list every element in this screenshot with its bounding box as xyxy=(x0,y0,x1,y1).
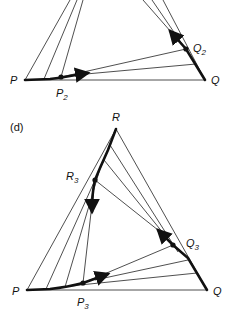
point-p2 xyxy=(58,74,63,79)
point-q3 xyxy=(170,242,175,247)
trajectory-q-curve xyxy=(170,31,205,80)
trajectory-p-curve xyxy=(27,274,108,290)
label-r3: R3 xyxy=(66,170,79,185)
label-r: R xyxy=(112,111,120,123)
label-p: P xyxy=(10,74,18,86)
label-q3: Q3 xyxy=(186,237,200,252)
trajectory-q-curve xyxy=(158,230,207,290)
ruling-line xyxy=(104,160,172,244)
point-p3 xyxy=(80,280,85,285)
diagram-canvas: P Q P2 Q2 (d) R P Q R3 P3 xyxy=(0,0,228,317)
trajectory-p-curve xyxy=(25,73,88,80)
label-p3: P3 xyxy=(77,296,89,311)
panel-d: (d) R P Q R3 P3 Q3 xyxy=(10,111,222,311)
panel-label-d: (d) xyxy=(10,121,23,133)
panel-c: P Q P2 Q2 xyxy=(10,0,220,102)
point-r3 xyxy=(92,177,97,182)
label-q2: Q2 xyxy=(193,42,207,57)
ruling-line xyxy=(61,49,186,77)
ruling-line xyxy=(110,145,178,252)
point-q2 xyxy=(183,46,188,51)
label-p2: P2 xyxy=(56,87,68,102)
label-p: P xyxy=(12,285,20,297)
label-q: Q xyxy=(211,74,220,86)
label-q: Q xyxy=(213,285,222,297)
ruling-line xyxy=(95,260,188,280)
